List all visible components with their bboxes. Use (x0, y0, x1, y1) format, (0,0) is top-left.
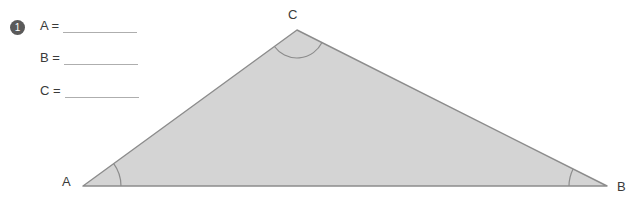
worksheet-problem: 1 A = B = C = A B C (0, 0, 636, 200)
vertex-label-a: A (62, 174, 71, 189)
vertex-label-c: C (288, 7, 297, 22)
vertex-label-b: B (617, 179, 626, 194)
triangle-shape (83, 30, 607, 186)
triangle-figure (0, 0, 636, 200)
